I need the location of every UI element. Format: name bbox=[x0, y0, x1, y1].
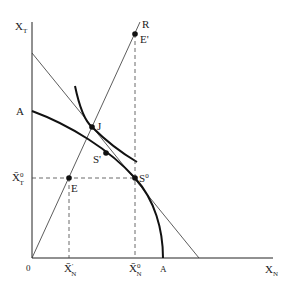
label-E-prime: E' bbox=[140, 33, 149, 45]
economics-diagram: XT XN 0 R E' J S' S0 E A A X̄0T X̄'N X̄0… bbox=[0, 0, 292, 287]
label-A-vertical: A bbox=[16, 105, 24, 117]
label-S0: S0 bbox=[139, 172, 149, 184]
point-S0 bbox=[132, 175, 138, 181]
label-S-prime: S' bbox=[93, 153, 101, 165]
x-axis-label: XN bbox=[265, 263, 278, 278]
label-A-horizontal: A bbox=[160, 264, 167, 274]
y-axis-label: XT bbox=[15, 20, 28, 35]
label-R: R bbox=[142, 18, 150, 30]
label-E: E bbox=[71, 182, 78, 194]
point-E bbox=[66, 175, 72, 181]
ray-0R bbox=[32, 22, 140, 258]
point-S-prime bbox=[103, 150, 109, 156]
point-E-prime bbox=[132, 31, 138, 37]
tick-xn0: X̄0N bbox=[129, 262, 142, 278]
tick-xt0: X̄0T bbox=[12, 171, 24, 187]
label-J: J bbox=[97, 120, 102, 132]
tick-xn1: X̄'N bbox=[64, 262, 76, 278]
point-J bbox=[89, 124, 95, 130]
price-line bbox=[32, 53, 199, 258]
origin-label: 0 bbox=[26, 263, 31, 273]
